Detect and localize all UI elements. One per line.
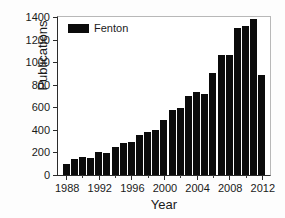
legend-label-fenton: Fenton xyxy=(94,22,128,34)
bar xyxy=(120,143,127,175)
bar xyxy=(250,19,257,175)
bar xyxy=(144,132,151,175)
y-tick: 0 xyxy=(53,175,58,176)
bar xyxy=(209,73,216,175)
x-tick-label: 1988 xyxy=(49,182,85,194)
y-tick: 600 xyxy=(53,107,58,108)
y-tick-label: 0 xyxy=(16,169,50,181)
x-tick-label: 2012 xyxy=(245,182,281,194)
bar-series-fenton xyxy=(58,17,270,175)
x-tick-minor xyxy=(246,175,247,178)
y-tick: 1200 xyxy=(53,40,58,41)
bar xyxy=(201,94,208,175)
bar xyxy=(242,26,249,175)
x-axis-label: Year xyxy=(57,197,271,212)
chart-figure: Publications 0200400600800100012001400 1… xyxy=(0,0,285,218)
bar xyxy=(79,157,86,175)
y-tick-label: 600 xyxy=(16,101,50,113)
x-tick: 2000 xyxy=(164,175,165,180)
bar xyxy=(160,120,167,175)
x-tick: 2004 xyxy=(197,175,198,180)
y-tick-label: 800 xyxy=(16,79,50,91)
y-tick: 400 xyxy=(53,130,58,131)
x-tick-label: 1992 xyxy=(82,182,118,194)
y-tick: 1000 xyxy=(53,62,58,63)
x-tick: 2012 xyxy=(262,175,263,180)
bar xyxy=(152,130,159,175)
y-tick-label: 400 xyxy=(16,124,50,136)
x-tick-minor xyxy=(82,175,83,178)
bar xyxy=(234,28,241,175)
bar xyxy=(136,135,143,175)
bar xyxy=(63,164,70,175)
y-tick-label: 200 xyxy=(16,146,50,158)
x-tick: 1996 xyxy=(131,175,132,180)
bar xyxy=(95,152,102,175)
bar xyxy=(177,108,184,175)
x-tick-minor xyxy=(148,175,149,178)
bar xyxy=(71,159,78,175)
bar xyxy=(193,92,200,175)
y-tick: 200 xyxy=(53,152,58,153)
legend-swatch-fenton xyxy=(68,24,89,33)
bar xyxy=(169,110,176,175)
x-tick-label: 2000 xyxy=(147,182,183,194)
x-tick-minor xyxy=(180,175,181,178)
y-tick-label: 1200 xyxy=(16,34,50,46)
bar xyxy=(87,158,94,175)
y-tick-label: 1400 xyxy=(16,11,50,23)
y-tick-label: 1000 xyxy=(16,56,50,68)
bar xyxy=(103,153,110,175)
x-tick: 1992 xyxy=(99,175,100,180)
x-tick-label: 2008 xyxy=(212,182,248,194)
x-tick: 2008 xyxy=(229,175,230,180)
bar xyxy=(226,55,233,175)
bar xyxy=(112,147,119,175)
y-tick: 1400 xyxy=(53,17,58,18)
x-tick-minor xyxy=(213,175,214,178)
x-tick-label: 1996 xyxy=(114,182,150,194)
chart-legend: Fenton xyxy=(68,22,128,34)
bar xyxy=(185,96,192,175)
x-tick: 1988 xyxy=(66,175,67,180)
y-tick: 800 xyxy=(53,85,58,86)
x-tick-minor xyxy=(115,175,116,178)
bar xyxy=(128,142,135,175)
bar xyxy=(218,55,225,175)
plot-area: 0200400600800100012001400 19881992199620… xyxy=(57,16,271,176)
x-tick-label: 2004 xyxy=(180,182,216,194)
bar xyxy=(258,75,265,175)
